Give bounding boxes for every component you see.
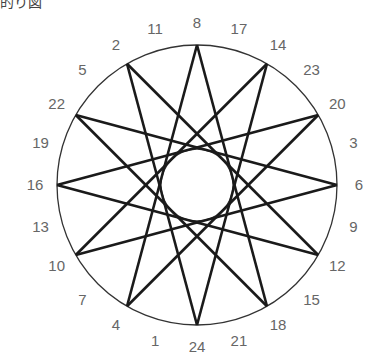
position-label: 21 [231,332,248,349]
position-label: 8 [193,14,201,31]
position-label: 9 [349,218,357,235]
star-polygon [57,45,337,325]
position-label: 3 [349,134,357,151]
star-diagram: 211817142320369121518212414710131619225 [0,0,372,363]
position-label: 17 [231,20,248,37]
position-label: 23 [303,61,320,78]
position-label: 5 [78,61,86,78]
position-label: 14 [270,36,287,53]
position-label: 15 [303,291,320,308]
position-label: 20 [329,95,346,112]
position-label: 19 [32,134,49,151]
position-label: 7 [78,291,86,308]
position-label: 18 [270,316,287,333]
position-label: 16 [27,176,44,193]
position-label: 2 [112,36,120,53]
position-label: 11 [147,20,163,37]
position-label: 22 [48,95,65,112]
position-label: 10 [48,257,65,274]
position-label: 24 [189,338,206,355]
position-label: 4 [112,316,120,333]
outer-circle [57,45,337,325]
position-labels: 211817142320369121518212414710131619225 [27,14,364,355]
position-label: 6 [355,176,363,193]
position-label: 12 [329,257,346,274]
position-label: 1 [151,332,159,349]
position-label: 13 [32,218,49,235]
